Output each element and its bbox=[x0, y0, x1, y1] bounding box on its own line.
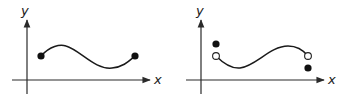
left-x-label: x bbox=[153, 72, 162, 87]
left-y-label: y bbox=[20, 3, 29, 18]
diagram-canvas: y x y x bbox=[0, 0, 344, 98]
left-endpoint-filled-b bbox=[131, 52, 138, 59]
left-curve bbox=[41, 45, 135, 68]
right-curve bbox=[216, 46, 308, 68]
right-x-label: x bbox=[327, 72, 336, 87]
left-graph: y x bbox=[12, 3, 162, 94]
right-right-endpoint-open bbox=[305, 53, 312, 60]
left-endpoint-filled-a bbox=[37, 52, 44, 59]
right-right-value-filled bbox=[304, 64, 311, 71]
right-left-endpoint-open bbox=[213, 53, 220, 60]
right-y-label: y bbox=[195, 3, 204, 18]
right-left-value-filled bbox=[212, 40, 219, 47]
right-graph: y x bbox=[186, 3, 336, 94]
